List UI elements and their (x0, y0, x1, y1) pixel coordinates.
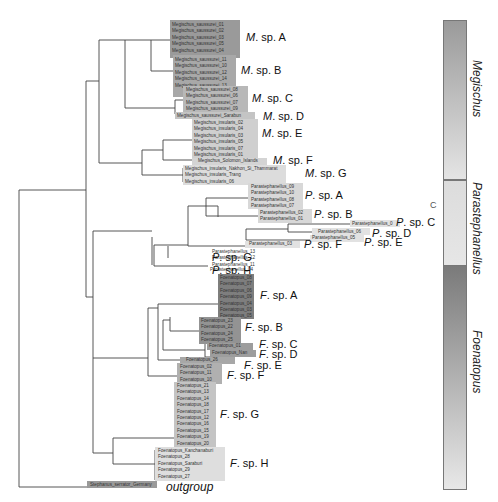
genus-label-foenatopus: Foenatopus (470, 330, 484, 393)
tip-label: Megischus_saussurei_11 (175, 57, 227, 63)
tip-label: Megischus_saussurei_14 (175, 76, 227, 82)
genus-initial: F (220, 408, 227, 420)
tip-label: Foenatopus_03 (220, 307, 252, 313)
tip-label: Foenatopus_29 (158, 467, 190, 473)
tip-label: Megischus_insularis_Nakhon_Si_Thammarat (185, 166, 277, 172)
species-label-F-B: F. sp. B (245, 321, 283, 333)
tip-label: Megischus_saussurei_02 (172, 28, 224, 34)
outgroup-tip-label: Stephanus_serrator_Germany (90, 482, 152, 488)
tip-label: Megischus_saussurei_05 (172, 41, 224, 47)
tip-label: Megischus_insularis_05 (194, 139, 243, 145)
genus-initial: P (314, 208, 321, 220)
genus-initial: P (212, 251, 219, 263)
species-label-F-H: F. sp. H (230, 457, 269, 469)
tip-label: Foenatopus_22 (201, 324, 233, 330)
tip-label: Foenatopus_13 (177, 389, 209, 395)
tip-label: Megischus_insularis_03 (194, 133, 243, 139)
species-label-M-C: M. sp. C (252, 92, 293, 104)
tip-label: Megischus_insularis_04 (194, 126, 243, 132)
genus-bar-megischus (443, 20, 467, 180)
genus-initial: F (245, 321, 252, 333)
tip-label: Parastephanellus_09 (251, 184, 294, 190)
species-label-M-G: M. sp. G (305, 167, 347, 179)
tip-label: Foenatopus_12 (177, 415, 209, 421)
genus-initial: P (304, 238, 311, 250)
tip-label: Foenatopus_14 (177, 396, 209, 402)
species-label-P-B: P. sp. B (314, 208, 353, 220)
genus-initial: F (260, 289, 267, 301)
species-label-M-D: M. sp. D (263, 110, 304, 122)
tip-label: Foenatopus_17 (177, 409, 209, 415)
tip-label: Megischus_saussurei_08 (186, 87, 238, 93)
tip-label: Foenatopus_11 (180, 370, 212, 376)
genus-initial: M (305, 167, 314, 179)
tip-label: Megischus_Solomon_Islands (198, 158, 258, 164)
tip-label: Foenatopus_01 (209, 343, 241, 349)
tip-label: Megischus_saussurei_01 (172, 22, 224, 28)
genus-initial: M (246, 31, 255, 43)
species-label-P-G: P. sp. G (212, 251, 252, 263)
tip-label: Foenatopus_18 (177, 402, 209, 408)
genus-initial: F (227, 369, 234, 381)
tip-label: Foenatopus_04 (220, 301, 252, 307)
tip-label: Megischus_insularis_Trang (185, 172, 241, 178)
species-label-P-E: P. sp. E (364, 236, 403, 248)
tip-label: Megischus_insularis_07 (194, 146, 243, 152)
species-label-M-A: M. sp. A (246, 31, 286, 43)
tip-label: Parastephanellus_01 (260, 216, 303, 222)
tip-label: Foenatopus_Saraburi (158, 461, 202, 467)
tip-label: Foenatopus_23 (201, 318, 233, 324)
tip-label: Foenatopus_07 (220, 281, 252, 287)
tip-label: Megischus_saussurei_03 (172, 35, 224, 41)
tip-label: Foenatopus_09 (220, 294, 252, 300)
genus-initial: F (230, 457, 237, 469)
tip-label: Megischus_saussurei_06 (186, 93, 238, 99)
tip-label: Foenatopus_20 (177, 441, 209, 447)
species-label-F-A: F. sp. A (260, 289, 297, 301)
genus-bar-parastephanellus (443, 180, 467, 266)
tip-label: Foenatopus_06 (220, 288, 252, 294)
tip-label: Foenatopus_16 (177, 421, 209, 427)
genus-initial: M (241, 64, 250, 76)
tip-label: Foenatopus_28 (158, 454, 190, 460)
tip-label: Foenatopus_19 (177, 434, 209, 440)
genus-initial: P (305, 189, 312, 201)
species-label-P-A: P. sp. A (305, 189, 343, 201)
tip-label: Foenatopus_27 (158, 474, 190, 480)
tip-label: Foenatopus_Kanchanaburi (158, 448, 213, 454)
genus-label-megischus: Megischus (470, 60, 484, 117)
tip-label: Megischus_saussurei_04 (172, 48, 224, 54)
tip-label: Megischus_saussurei_07 (186, 100, 238, 106)
tip-label: Parastephanellus_02 (260, 210, 303, 216)
species-label-M-E: M. sp. E (262, 127, 302, 139)
tip-label: Foenatopus_02 (180, 364, 212, 370)
tip-label: Foenatopus_21 (177, 383, 209, 389)
tip-label: Foenatopus_Nan (212, 350, 247, 356)
tip-label: Parastephanellus_03 (249, 241, 292, 247)
tip-label: Foenatopus_15 (177, 428, 209, 434)
species-label-P-F: P. sp. F (304, 238, 342, 250)
tip-label: Foenatopus_08 (220, 275, 252, 281)
genus-label-parastephanellus: Parastephanellus (470, 182, 484, 275)
tip-label: Foenatopus_24 (201, 331, 233, 337)
stray-mark: C (430, 200, 437, 210)
tip-label: Megischus_saussurei_12 (175, 70, 227, 76)
genus-bar-foenatopus (443, 265, 467, 490)
outgroup-label: outgroup (166, 480, 213, 494)
species-label-F-F: F. sp. F (227, 369, 264, 381)
genus-initial: M (252, 92, 261, 104)
tip-label: Megischus_saussurei_10 (175, 63, 227, 69)
tip-label: Megischus_insularis_02 (194, 120, 243, 126)
genus-initial: P (364, 236, 371, 248)
species-label-M-B: M. sp. B (241, 64, 281, 76)
species-label-F-G: F. sp. G (220, 408, 259, 420)
genus-initial: M (262, 127, 271, 139)
tip-label: Parastephanellus_08 (251, 197, 294, 203)
tip-label: Parastephanellus_10 (251, 190, 294, 196)
genus-initial: M (263, 110, 272, 122)
tip-label: Megischus_insularis_06 (185, 179, 234, 185)
